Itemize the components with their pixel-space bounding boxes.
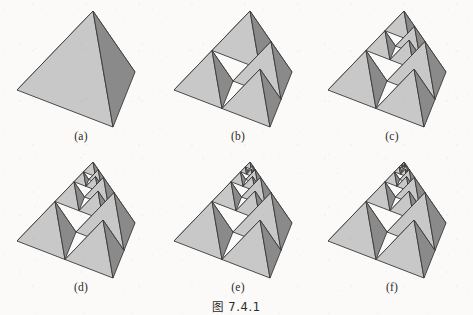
figure-page: (a) (b) (c) (d) (e) (f) 图 7.4.1	[0, 0, 473, 315]
sub-tetrahedron	[328, 202, 387, 260]
sub-tetrahedron	[212, 182, 242, 211]
sub-tetrahedron	[174, 202, 233, 260]
sub-tetrahedron	[174, 51, 233, 109]
panel-label-f: (f)	[313, 281, 471, 293]
panel-label-d: (d)	[2, 281, 160, 293]
panel-label-b: (b)	[159, 130, 317, 142]
sub-tetrahedron	[17, 11, 135, 127]
sub-tetrahedron	[366, 31, 396, 60]
sub-tetrahedron	[17, 202, 76, 260]
panel-label-c: (c)	[313, 130, 471, 142]
panel-label-a: (a)	[2, 130, 160, 142]
sub-tetrahedron	[366, 182, 396, 211]
sub-tetrahedron	[55, 182, 85, 211]
figure-caption: 图 7.4.1	[0, 298, 473, 314]
sub-tetrahedron	[328, 51, 387, 109]
panel-label-e: (e)	[159, 281, 317, 293]
